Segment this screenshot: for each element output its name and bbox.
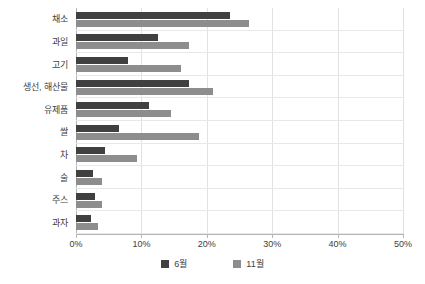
category-axis-labels: 채소과일고기생선, 해산물유제품쌀차술주스과자 [0,8,72,234]
bar-group [76,8,403,31]
value-axis: 0%10%20%30%40%50% [76,234,403,256]
bar-group [76,189,403,212]
axis-tick-mark [272,234,273,238]
bar [76,65,181,72]
legend-item[interactable]: 6월 [161,259,187,269]
horizontal-bar-chart: 채소과일고기생선, 해산물유제품쌀차술주스과자 0%10%20%30%40%50… [0,0,425,284]
category-label: 채소 [52,14,68,24]
axis-tick-label: 0% [69,239,82,250]
bar [76,80,189,87]
bar [76,155,137,162]
bar [76,20,249,27]
legend-label: 11월 [246,259,263,269]
bar-group [76,31,403,54]
bar-group [76,166,403,189]
bar [76,42,189,49]
bar-group [76,121,403,144]
bar [76,34,158,41]
bar [76,147,105,154]
axis-tick-mark [76,234,77,238]
axis-tick-label: 10% [132,239,150,250]
bar [76,170,93,177]
chart-legend: 6월11월 [0,259,425,269]
legend-swatch-icon [161,260,169,268]
axis-line [76,234,403,235]
bar [76,215,91,222]
legend-item[interactable]: 11월 [233,259,263,269]
bar [76,201,102,208]
bar [76,133,199,140]
category-label: 생선, 해산물 [23,82,68,92]
bar-group [76,76,403,99]
legend-swatch-icon [233,260,241,268]
axis-tick-label: 40% [329,239,347,250]
category-label: 고기 [52,60,68,70]
bar [76,88,213,95]
bar [76,12,230,19]
bar-group [76,211,403,234]
bar [76,57,128,64]
category-label: 과자 [52,218,68,228]
bar-group [76,98,403,121]
axis-tick-mark [141,234,142,238]
bar [76,102,149,109]
category-label: 쌀 [60,127,68,137]
bar-group [76,53,403,76]
category-label: 주스 [52,195,68,205]
plot-area [76,8,403,234]
axis-tick-label: 30% [263,239,281,250]
bar-group [76,144,403,167]
bar [76,110,171,117]
axis-tick-mark [338,234,339,238]
bar [76,178,102,185]
bar [76,193,95,200]
axis-tick-mark [403,234,404,238]
category-label: 술 [60,173,68,183]
axis-tick-label: 50% [394,239,412,250]
axis-tick-label: 20% [198,239,216,250]
bar [76,125,119,132]
category-label: 과일 [52,37,68,47]
category-label: 차 [60,150,68,160]
gridline-vertical [403,8,404,234]
axis-tick-mark [207,234,208,238]
category-label: 유제품 [44,105,68,115]
bar [76,223,98,230]
legend-label: 6월 [174,259,187,269]
